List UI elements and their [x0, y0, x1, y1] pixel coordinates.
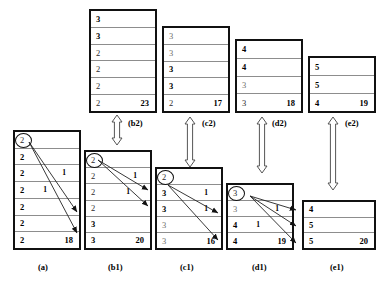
caption-b1: (b1): [108, 262, 123, 272]
caption-c1: (c1): [180, 262, 194, 272]
caption-a: (a): [38, 262, 48, 272]
caption-d1: (d1): [252, 262, 267, 272]
figure-canvas: 3 3 2 2 2 2 23 3 3 3 3 2: [0, 0, 390, 283]
caption-e1: (e1): [330, 262, 344, 272]
arrow-c1-to-d1: [168, 185, 218, 240]
arrow-b1-to-c1: [98, 160, 148, 206]
caption-c2: (c2): [202, 118, 216, 128]
move-arrows-layer: [0, 0, 390, 283]
arrow-d1-to-e1: [250, 196, 296, 243]
caption-b2: (b2): [128, 118, 143, 128]
caption-d2: (d2): [272, 118, 287, 128]
arrow-a-to-b1: [29, 142, 77, 233]
caption-e2: (e2): [345, 118, 359, 128]
